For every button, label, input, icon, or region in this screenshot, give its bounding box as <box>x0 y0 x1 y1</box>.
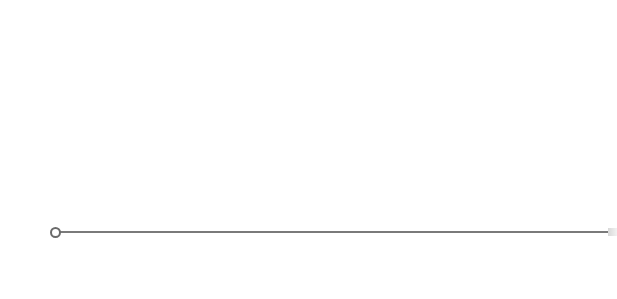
canvas <box>0 0 617 299</box>
slider-track[interactable] <box>60 231 610 233</box>
slider-thumb-handle[interactable] <box>50 227 61 238</box>
slider[interactable] <box>49 226 617 239</box>
slider-track-end <box>608 228 617 236</box>
